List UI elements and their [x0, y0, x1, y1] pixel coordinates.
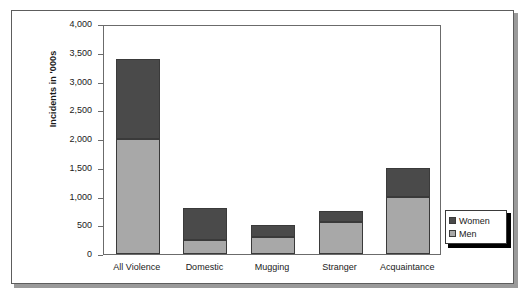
bar-segment-women[interactable]	[319, 211, 363, 223]
y-axis-tick-label: 500	[77, 220, 92, 230]
y-axis-tick-label: 0	[87, 249, 92, 259]
y-axis-tick-mark	[98, 255, 103, 256]
chart-legend: WomenMen	[445, 210, 507, 244]
bar-group[interactable]	[319, 24, 363, 254]
bar-segment-men[interactable]	[319, 222, 363, 254]
y-axis-tick-label: 2,000	[69, 134, 92, 144]
bar-segment-women[interactable]	[251, 225, 295, 237]
bar-group[interactable]	[386, 24, 430, 254]
x-axis-tick-label: Mugging	[238, 262, 306, 272]
legend-item-label: Men	[459, 229, 477, 239]
chart-figure: Incidents in '000s 05001,0001,5002,0002,…	[0, 0, 529, 302]
legend-item[interactable]: Men	[449, 227, 506, 240]
y-axis-tick-label: 1,500	[69, 163, 92, 173]
x-axis-tick-label: All Violence	[103, 262, 171, 272]
bar-segment-women[interactable]	[183, 208, 227, 240]
legend-items: WomenMen	[449, 214, 506, 240]
bar-group[interactable]	[183, 24, 227, 254]
x-axis-tick-label: Stranger	[306, 262, 374, 272]
plot-area	[103, 25, 441, 255]
y-axis-tick-label: 1,000	[69, 192, 92, 202]
bar-segment-women[interactable]	[116, 59, 160, 140]
y-axis-tick-label: 3,000	[69, 77, 92, 87]
bar-segment-men[interactable]	[251, 237, 295, 254]
bar-segment-men[interactable]	[183, 240, 227, 254]
bar-segment-men[interactable]	[386, 197, 430, 255]
legend-swatch-icon	[449, 217, 456, 224]
y-axis-tick-label: 3,500	[69, 48, 92, 58]
bar-group[interactable]	[116, 24, 160, 254]
bar-segment-women[interactable]	[386, 168, 430, 197]
y-axis-tick-label: 2,500	[69, 105, 92, 115]
x-axis-tick-label: Domestic	[171, 262, 239, 272]
y-axis-title: Incidents in '000s	[48, 9, 58, 169]
legend-item-label: Women	[459, 216, 490, 226]
bar-segment-men[interactable]	[116, 139, 160, 254]
y-axis-tick-label: 4,000	[69, 19, 92, 29]
legend-swatch-icon	[449, 230, 456, 237]
x-axis-tick-label: Acquaintance	[373, 262, 441, 272]
bar-group[interactable]	[251, 24, 295, 254]
legend-item[interactable]: Women	[449, 214, 506, 227]
